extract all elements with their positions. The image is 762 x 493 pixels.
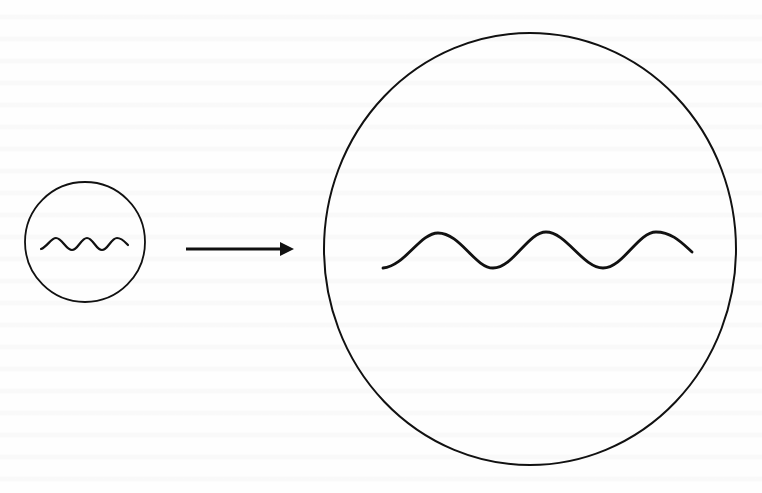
- magnification-diagram: [0, 0, 762, 493]
- arrow-right-icon: [280, 242, 294, 256]
- small-wave-icon: [41, 238, 128, 250]
- small-circle: [25, 182, 145, 302]
- large-circle: [324, 33, 736, 465]
- scanned-page: [0, 0, 762, 493]
- arrow-group: [186, 242, 294, 256]
- large-wave-icon: [383, 232, 692, 268]
- large-circle-group: [324, 33, 736, 465]
- small-circle-group: [25, 182, 145, 302]
